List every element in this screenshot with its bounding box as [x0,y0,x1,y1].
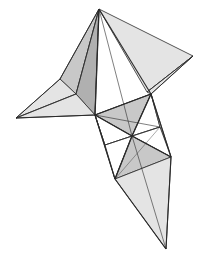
folded-star-diagram [0,0,201,262]
